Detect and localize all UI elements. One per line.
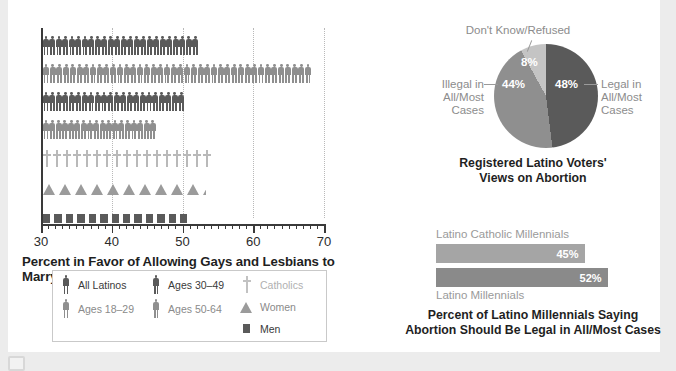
cross-icon xyxy=(243,276,251,293)
person-icon xyxy=(56,120,61,139)
triangle-icon xyxy=(240,302,252,313)
tick-60 xyxy=(253,224,255,233)
pictogram-row-men xyxy=(43,198,192,224)
triangle-icon xyxy=(123,184,135,195)
pictogram-glyph-strip xyxy=(43,31,199,55)
square-icon xyxy=(43,214,50,223)
person-icon xyxy=(106,120,111,139)
person-icon xyxy=(74,120,79,139)
legend-column-1: All LatinosAges 18–29 xyxy=(61,277,151,335)
person-icon xyxy=(43,92,48,111)
pie-label-illegal-line1: Illegal in xyxy=(400,78,484,91)
tick-46 xyxy=(154,224,155,229)
legend-item-all-latinos[interactable]: All Latinos xyxy=(61,277,151,292)
pictogram-row-all-latinos xyxy=(43,30,199,56)
tick-62 xyxy=(267,224,268,229)
person-icon xyxy=(97,64,103,83)
pie-label-legal-line2: All/Most xyxy=(601,91,676,104)
person-icon xyxy=(70,64,76,83)
person-icon xyxy=(127,36,132,55)
tick-55 xyxy=(218,224,219,229)
person-icon xyxy=(130,64,136,83)
tick-30 xyxy=(41,224,43,233)
legend-icon xyxy=(151,275,162,294)
person-icon xyxy=(101,92,106,111)
person-icon xyxy=(151,64,157,83)
person-icon xyxy=(68,120,73,139)
legend-item-ages-50-64[interactable]: Ages 50-64 xyxy=(151,301,243,316)
triangle-icon xyxy=(43,184,55,195)
person-icon xyxy=(134,36,139,55)
person-icon xyxy=(251,64,257,83)
person-icon xyxy=(118,120,123,139)
person-icon xyxy=(56,64,62,83)
person-icon xyxy=(101,36,106,55)
legend-icon xyxy=(61,299,72,318)
cross-icon xyxy=(183,150,190,167)
page-root: 3040506070 Percent in Favor of Allowing … xyxy=(0,0,676,371)
legend-item-ages-30-49[interactable]: Ages 30–49 xyxy=(151,277,243,292)
legend-item-men[interactable]: Men xyxy=(243,323,318,336)
triangle-icon xyxy=(187,184,199,195)
tick-67 xyxy=(303,224,304,229)
triangle-icon xyxy=(203,184,206,195)
tick-57 xyxy=(232,224,233,229)
pie-pct-dont-know: 8% xyxy=(521,56,538,68)
person-icon xyxy=(292,64,298,83)
tick-63 xyxy=(274,224,275,229)
person-icon xyxy=(153,299,159,318)
legend-item-label: Women xyxy=(260,301,296,313)
tick-66 xyxy=(296,224,297,229)
person-icon xyxy=(166,36,171,55)
person-icon xyxy=(127,92,132,111)
tick-51 xyxy=(190,224,191,229)
bar-value-latino-millennials: 52% xyxy=(580,272,602,284)
person-icon xyxy=(120,92,125,111)
person-icon xyxy=(83,64,89,83)
person-icon xyxy=(95,92,100,111)
person-icon xyxy=(153,275,159,294)
person-icon xyxy=(75,92,80,111)
square-icon xyxy=(134,214,141,223)
pie-chart-title: Registered Latino Voters' Views on Abort… xyxy=(390,156,676,186)
square-icon xyxy=(157,214,164,223)
square-icon xyxy=(66,214,73,223)
legend-icon xyxy=(151,299,162,318)
pictogram-row-women xyxy=(43,170,206,196)
x-tick-label-30: 30 xyxy=(34,234,48,249)
legend-item-ages-18-29[interactable]: Ages 18–29 xyxy=(61,301,151,316)
person-icon xyxy=(62,120,67,139)
tick-56 xyxy=(225,224,226,229)
cross-icon xyxy=(203,150,210,167)
person-icon xyxy=(285,64,291,83)
person-icon xyxy=(133,92,138,111)
square-icon xyxy=(112,214,119,223)
legend-item-women[interactable]: Women xyxy=(243,301,318,314)
legend-item-catholics[interactable]: Catholics xyxy=(243,277,318,292)
person-icon xyxy=(114,36,119,55)
legend-item-label: All Latinos xyxy=(78,279,126,291)
person-icon xyxy=(107,92,112,111)
person-icon xyxy=(140,92,145,111)
bar-label-latino-millennials: Latino Millennials xyxy=(436,289,524,301)
person-icon xyxy=(179,36,184,55)
person-icon xyxy=(211,64,217,83)
person-icon xyxy=(62,36,67,55)
pictogram-glyph-strip xyxy=(43,143,213,167)
person-icon xyxy=(88,92,93,111)
triangle-icon xyxy=(59,184,71,195)
person-icon xyxy=(137,64,143,83)
person-icon xyxy=(108,36,113,55)
legend-icon xyxy=(243,276,254,293)
cross-icon xyxy=(63,150,70,167)
person-icon xyxy=(238,64,244,83)
pictogram-glyph-strip xyxy=(43,87,185,111)
pie-disc xyxy=(494,44,598,148)
cross-icon xyxy=(113,150,120,167)
person-icon xyxy=(110,64,116,83)
legend-item-label: Men xyxy=(260,323,280,335)
cross-icon xyxy=(73,150,80,167)
person-icon xyxy=(49,36,54,55)
person-icon xyxy=(43,36,48,55)
pie-title-line2: Views on Abortion xyxy=(390,171,676,186)
